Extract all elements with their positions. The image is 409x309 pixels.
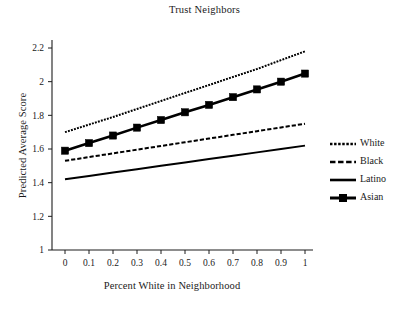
- legend-label: Latino: [360, 173, 386, 184]
- legend-label: Black: [360, 155, 383, 166]
- series-marker-asian: [277, 78, 284, 85]
- legend-swatch-svg: [330, 156, 356, 168]
- x-tick-label: 1: [303, 258, 308, 268]
- series-marker-asian: [157, 116, 164, 123]
- x-tick-label: 0.6: [203, 258, 215, 268]
- legend-label: Asian: [360, 191, 383, 202]
- x-axis-label: Percent White in Neighborhood: [30, 280, 314, 291]
- series-line-black: [65, 124, 305, 161]
- chart-figure: Trust Neighbors 00.10.20.30.40.50.60.70.…: [0, 0, 409, 309]
- legend-swatch-svg: [330, 138, 356, 150]
- series-marker-asian: [181, 109, 188, 116]
- legend-item-asian[interactable]: Asian: [330, 187, 406, 205]
- series-marker-asian: [301, 70, 308, 77]
- y-tick-label: 2: [39, 77, 44, 87]
- legend-swatch-svg: [330, 192, 356, 204]
- series-marker-asian: [205, 101, 212, 108]
- series-line-latino: [65, 146, 305, 180]
- x-axis-ticks: 00.10.20.30.40.50.60.70.80.91: [63, 250, 308, 268]
- x-tick-label: 0.8: [251, 258, 263, 268]
- data-series-group: [61, 51, 308, 179]
- legend-item-white[interactable]: White: [330, 133, 406, 151]
- x-tick-label: 0.7: [227, 258, 239, 268]
- legend-item-black[interactable]: Black: [330, 151, 406, 169]
- y-tick-label: 1: [39, 245, 44, 255]
- series-marker-asian: [229, 94, 236, 101]
- x-tick-label: 0.1: [83, 258, 95, 268]
- y-tick-label: 1.4: [32, 178, 44, 188]
- y-axis-label: Predicted Average Score: [17, 56, 28, 236]
- legend-item-latino[interactable]: Latino: [330, 169, 406, 187]
- y-tick-label: 2.2: [32, 43, 44, 53]
- x-tick-label: 0.5: [179, 258, 191, 268]
- series-marker-asian: [253, 86, 260, 93]
- x-tick-label: 0.3: [131, 258, 143, 268]
- y-tick-label: 1.6: [32, 144, 44, 154]
- chart-legend: WhiteBlackLatinoAsian: [330, 133, 406, 205]
- legend-label: White: [360, 137, 384, 148]
- x-tick-label: 0: [63, 258, 68, 268]
- series-marker-asian: [61, 147, 68, 154]
- legend-swatch-asian-icon: [330, 190, 356, 202]
- x-tick-label: 0.9: [275, 258, 287, 268]
- series-marker-asian: [133, 124, 140, 131]
- y-tick-label: 1.2: [32, 212, 44, 222]
- y-axis-ticks: 11.21.41.61.822.2: [32, 43, 52, 255]
- x-tick-label: 0.4: [155, 258, 167, 268]
- legend-square-marker-icon: [339, 194, 347, 202]
- series-line-white: [65, 51, 305, 132]
- legend-swatch-black-icon: [330, 154, 356, 166]
- x-tick-label: 0.2: [107, 258, 119, 268]
- legend-swatch-svg: [330, 174, 356, 186]
- legend-swatch-white-icon: [330, 136, 356, 148]
- series-marker-asian: [109, 132, 116, 139]
- legend-swatch-latino-icon: [330, 172, 356, 184]
- series-marker-asian: [85, 140, 92, 147]
- y-tick-label: 1.8: [32, 111, 44, 121]
